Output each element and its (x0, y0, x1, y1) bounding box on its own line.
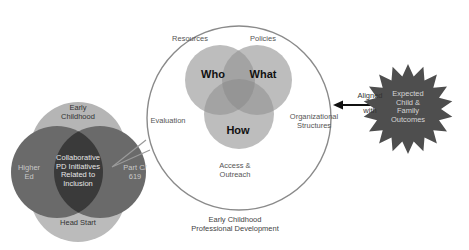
evaluation-label: Evaluation (143, 117, 193, 126)
policies-label: Policies (233, 35, 293, 44)
access-outreach-label: Access & Outreach (210, 162, 260, 179)
who-label: Who (193, 68, 233, 81)
professional-development-caption: Early Childhood Professional Development (180, 216, 290, 233)
higher-ed-label: Higher Ed (14, 164, 44, 181)
organizational-structures-label: Organizational Structures (284, 113, 344, 130)
collaborative-initiatives-label: Collaborative PD Initiatives Related to … (53, 154, 103, 189)
what-label: What (243, 68, 283, 81)
aligned-with-label: Aligned with (350, 92, 390, 115)
part-c-619-label: Part C/ 619 (120, 164, 150, 181)
early-childhood-label: Early Childhood (58, 104, 98, 121)
head-start-label: Head Start (53, 219, 103, 228)
resources-label: Resources (165, 35, 215, 44)
expected-outcomes-label: Expected Child & Family Outcomes (385, 90, 431, 125)
how-label: How (218, 124, 258, 137)
